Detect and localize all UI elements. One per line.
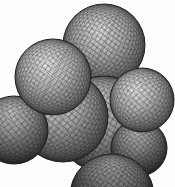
molecular-model-figure (0, 0, 175, 187)
molecule-wireframe-render (0, 0, 175, 187)
